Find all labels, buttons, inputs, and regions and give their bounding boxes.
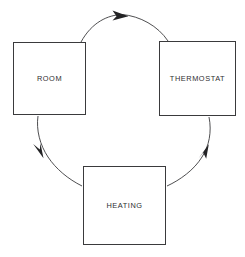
node-thermostat-label: THERMOSTAT [170, 75, 225, 82]
cycle-diagram: ROOM THERMOSTAT HEATING [0, 0, 245, 257]
node-room-label: ROOM [37, 75, 62, 82]
node-heating[interactable]: HEATING [83, 166, 166, 245]
node-heating-label: HEATING [106, 202, 142, 209]
edge-room-to-thermostat-line-2 [122, 15, 168, 42]
edge-room-to-thermostat-line [81, 15, 122, 43]
edge-thermostat-to-heating-line [202, 117, 210, 157]
edge-heating-to-room-line-2 [37, 116, 48, 157]
node-thermostat[interactable]: THERMOSTAT [159, 41, 236, 116]
edge-thermostat-to-heating-arrowhead [199, 144, 209, 159]
edge-room-to-thermostat [81, 11, 168, 43]
edge-thermostat-to-heating [167, 117, 210, 186]
edge-heating-to-room-line [48, 157, 82, 186]
edge-room-to-thermostat-arrowhead [113, 11, 129, 21]
node-room[interactable]: ROOM [13, 42, 86, 115]
edge-thermostat-to-heating-line-2 [167, 157, 202, 186]
edge-heating-to-room-arrowhead [33, 144, 43, 159]
edge-heating-to-room [33, 116, 82, 186]
